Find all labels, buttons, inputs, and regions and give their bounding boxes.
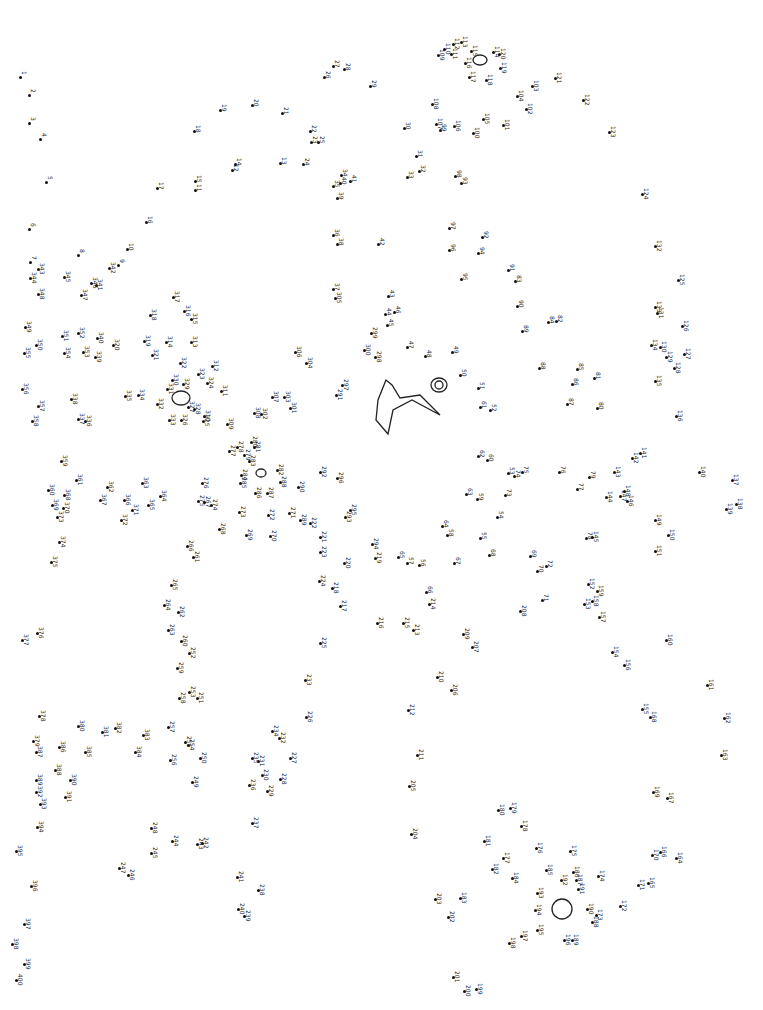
dot-number-label: 339 xyxy=(96,351,102,362)
dot-number-label: 13 xyxy=(281,157,287,165)
dot-number-label: 350 xyxy=(37,339,43,350)
dot-number-label: 227 xyxy=(291,752,297,763)
dot-number-label: 223 xyxy=(321,546,327,557)
dot-number-label: 22 xyxy=(311,125,317,133)
dot-number-label: 344 xyxy=(31,272,37,283)
dot-number-label: 140 xyxy=(700,466,706,477)
dot-number-label: 167 xyxy=(668,792,674,803)
dot-number-label: 16 xyxy=(147,216,153,224)
dot-number-label: 46 xyxy=(395,306,401,314)
dot-number-label: 26 xyxy=(325,71,331,79)
dot-number-label: 178 xyxy=(522,820,528,831)
dot-number-label: 10 xyxy=(128,243,134,251)
dot-number-label: 384 xyxy=(136,746,142,757)
dot-number-label: 82 xyxy=(557,315,563,323)
dot-number-label: 75 xyxy=(523,466,529,474)
puzzle-dot[interactable] xyxy=(28,122,31,125)
dot-number-label: 360 xyxy=(49,484,55,495)
dot-number-label: 392 xyxy=(37,786,43,797)
dot-number-label: 104 xyxy=(518,90,524,101)
dot-number-label: 51 xyxy=(479,382,485,390)
puzzle-dot[interactable] xyxy=(28,228,31,231)
dot-number-label: 364 xyxy=(161,490,167,501)
dot-number-label: 292 xyxy=(321,466,327,477)
dot-number-label: 172 xyxy=(621,900,627,911)
dot-number-label: 383 xyxy=(144,729,150,740)
dot-number-label: 190 xyxy=(588,903,594,914)
dot-number-label: 55 xyxy=(481,532,487,540)
dot-number-label: 326 xyxy=(182,414,188,425)
dot-number-label: 79 xyxy=(590,471,596,479)
puzzle-dot[interactable] xyxy=(45,181,48,184)
dot-number-label: 122 xyxy=(584,94,590,105)
dot-number-label: 374 xyxy=(60,536,66,547)
dot-number-label: 65 xyxy=(399,551,405,559)
dot-number-label: 331 xyxy=(168,383,174,394)
puzzle-dot[interactable] xyxy=(77,254,80,257)
dot-number-label: 262 xyxy=(179,606,185,617)
dot-number-label: 87 xyxy=(568,398,574,406)
dot-number-label: 5 xyxy=(47,176,53,180)
dot-number-label: 45 xyxy=(388,319,394,327)
dot-number-label: 40 xyxy=(341,177,347,185)
dot-number-label: 137 xyxy=(733,474,739,485)
dot-number-label: 179 xyxy=(511,802,517,813)
dot-number-label: 174 xyxy=(599,870,605,881)
dot-number-label: 54 xyxy=(498,511,504,519)
dot-number-label: 232 xyxy=(280,732,286,743)
puzzle-dot[interactable] xyxy=(28,94,31,97)
dot-number-label: 282 xyxy=(278,464,284,475)
dot-number-label: 25 xyxy=(319,136,325,144)
dot-number-label: 287 xyxy=(268,487,274,498)
dot-number-label: 113 xyxy=(462,36,468,47)
dot-number-label: 394 xyxy=(38,821,44,832)
dot-number-label: 285 xyxy=(241,477,247,488)
dot-number-label: 385 xyxy=(86,746,92,757)
dot-number-label: 171 xyxy=(639,879,645,890)
dot-number-label: 62 xyxy=(479,450,485,458)
dot-number-label: 245 xyxy=(152,847,158,858)
dot-number-label: 356 xyxy=(23,383,29,394)
dot-number-label: 94 xyxy=(479,247,485,255)
dot-number-label: 311 xyxy=(222,385,228,396)
dot-number-label: 396 xyxy=(32,880,38,891)
dot-number-label: 248 xyxy=(152,822,158,833)
dot-number-label: 64 xyxy=(443,520,449,528)
dot-number-label: 48 xyxy=(426,350,432,358)
dot-number-label: 95 xyxy=(462,273,468,281)
dot-number-label: 233 xyxy=(306,674,312,685)
dot-number-label: 152 xyxy=(589,578,595,589)
dot-number-label: 39 xyxy=(338,192,344,200)
dot-number-label: 29 xyxy=(371,80,377,88)
dot-number-label: 206 xyxy=(452,684,458,695)
dot-number-label: 77 xyxy=(578,483,584,491)
dot-number-label: 199 xyxy=(477,983,483,994)
dot-number-label: 4 xyxy=(41,133,47,137)
dot-number-label: 198 xyxy=(510,937,516,948)
outline-shape xyxy=(431,378,447,392)
dot-number-label: 200 xyxy=(465,985,471,996)
dot-number-label: 100 xyxy=(474,127,480,138)
dot-number-label: 255 xyxy=(186,736,192,747)
dot-number-label: 19 xyxy=(221,104,227,112)
dot-number-label: 348 xyxy=(39,288,45,299)
dot-number-label: 270 xyxy=(271,530,277,541)
dot-number-label: 148 xyxy=(625,485,631,496)
dot-number-label: 119 xyxy=(501,62,507,73)
dot-number-label: 129 xyxy=(667,351,673,362)
dot-number-label: 235 xyxy=(253,752,259,763)
puzzle-dot[interactable] xyxy=(19,76,22,79)
dot-number-label: 8 xyxy=(79,249,85,253)
dot-number-label: 132 xyxy=(656,240,662,251)
dot-number-label: 379 xyxy=(34,735,40,746)
puzzle-dot[interactable] xyxy=(29,261,32,264)
puzzle-dot[interactable] xyxy=(39,138,42,141)
dot-number-label: 34 xyxy=(342,169,348,177)
dot-number-label: 263 xyxy=(169,624,175,635)
dot-number-label: 299 xyxy=(372,327,378,338)
dot-number-label: 96 xyxy=(450,244,456,252)
puzzle-outline-shapes xyxy=(0,0,763,1010)
dot-number-label: 161 xyxy=(708,679,714,690)
dot-number-label: 221 xyxy=(321,531,327,542)
dot-number-label: 1 xyxy=(21,71,27,75)
